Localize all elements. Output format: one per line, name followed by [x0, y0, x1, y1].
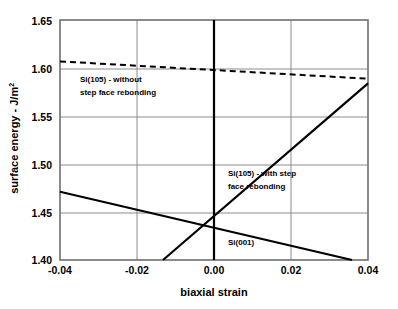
- plot-area: [0, 0, 398, 309]
- annotation-si105-without: Si(105) - without step face rebonding: [80, 73, 156, 99]
- annotation-si105-with-line1: Si(105) - with step: [228, 167, 296, 180]
- chart-figure: surface energy - J/m2 biaxial strain 1.6…: [0, 0, 398, 309]
- series-si001: [60, 192, 352, 260]
- annotation-si105-with: Si(105) - with step face rebonding: [228, 167, 296, 193]
- annotation-si105-with-line2: face rebonding: [228, 180, 296, 193]
- annotation-si001-line1: Si(001): [228, 236, 254, 249]
- annotation-si105-without-line1: Si(105) - without: [80, 73, 156, 86]
- annotation-si001: Si(001): [228, 236, 254, 249]
- annotation-si105-without-line2: step face rebonding: [80, 86, 156, 99]
